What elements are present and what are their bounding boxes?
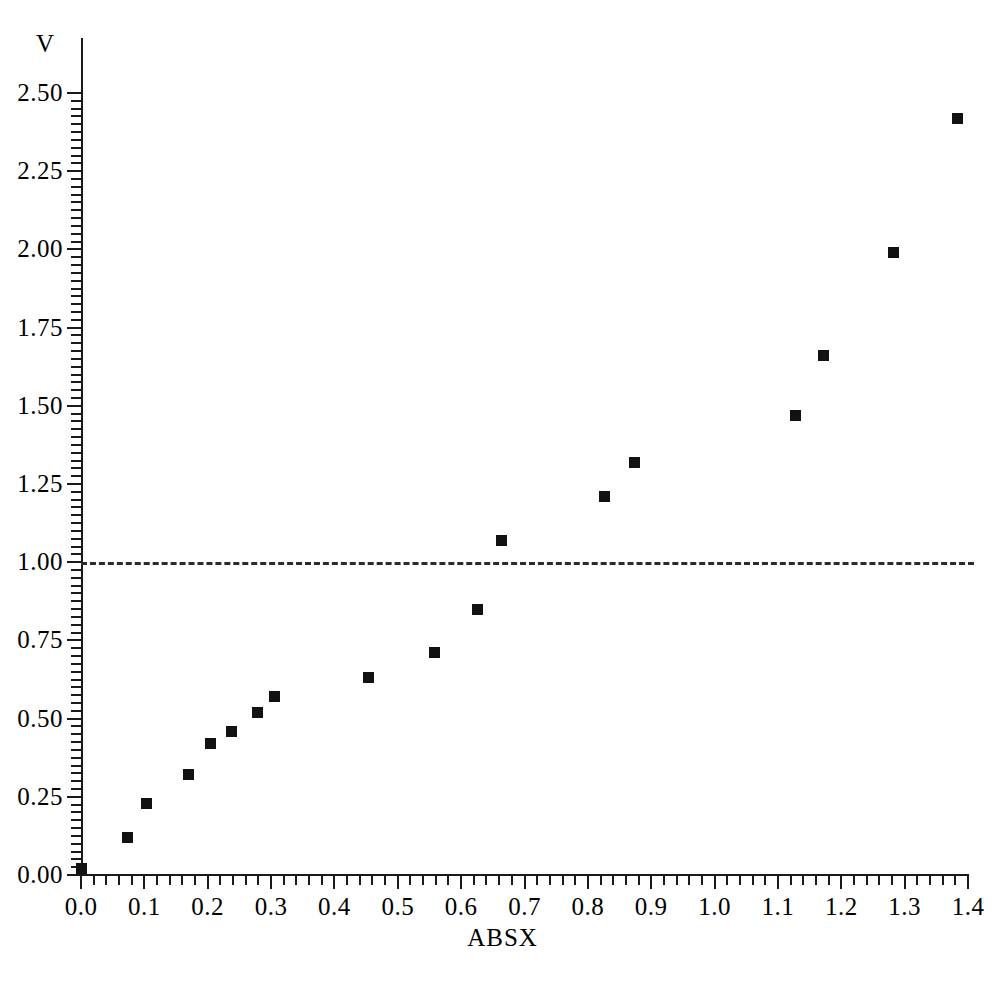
data-point xyxy=(122,832,133,843)
data-point xyxy=(76,863,87,874)
data-point xyxy=(496,535,507,546)
data-point xyxy=(952,113,963,124)
data-point xyxy=(269,691,280,702)
data-point xyxy=(790,410,801,421)
data-point xyxy=(888,247,899,258)
x-axis-title: ABSX xyxy=(0,925,1005,951)
y-axis-title: V xyxy=(36,31,54,56)
data-point xyxy=(472,604,483,615)
data-point xyxy=(429,647,440,658)
data-point xyxy=(183,769,194,780)
data-point xyxy=(141,798,152,809)
data-point xyxy=(818,350,829,361)
data-point xyxy=(252,707,263,718)
data-point xyxy=(599,491,610,502)
data-point xyxy=(226,726,237,737)
data-points-layer xyxy=(0,0,1005,986)
data-point xyxy=(629,457,640,468)
data-point xyxy=(205,738,216,749)
scatter-plot-figure: 0.000.250.500.751.001.251.501.752.002.25… xyxy=(0,0,1005,986)
reference-line xyxy=(81,562,974,565)
data-point xyxy=(363,672,374,683)
